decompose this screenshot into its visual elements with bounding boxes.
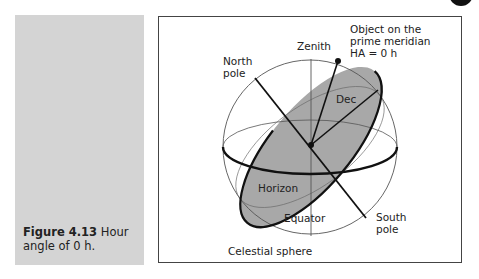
dec-label: Dec — [336, 93, 356, 105]
object-label-3: HA = 0 h — [350, 47, 397, 59]
north-pole-label-2: pole — [223, 67, 245, 79]
north-pole-label: North — [223, 55, 252, 67]
object-label-1: Object on the — [350, 23, 421, 35]
sphere-center — [308, 142, 314, 148]
south-pole-label: South — [376, 211, 407, 223]
celestial-sphere-label: Celestial sphere — [228, 245, 312, 257]
object-label-2: prime meridian — [350, 35, 431, 47]
equator-label: Equator — [284, 212, 325, 224]
zenith-label: Zenith — [297, 40, 331, 52]
horizon-label: Horizon — [258, 182, 298, 194]
object-marker — [335, 58, 341, 64]
south-pole-label-2: pole — [376, 223, 398, 235]
